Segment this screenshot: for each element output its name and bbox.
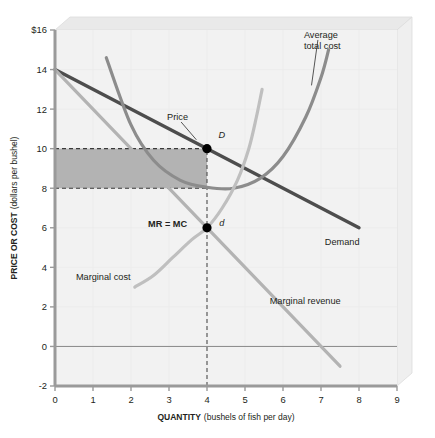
x-tick-label: 6 — [280, 394, 285, 405]
x-tick-label: 4 — [204, 394, 209, 405]
y-axis-title: PRICE OR COST(dollars per bushel) — [9, 136, 19, 279]
x-tick-label: 2 — [128, 394, 133, 405]
marker-point-d — [202, 223, 211, 232]
marker-point-D — [202, 144, 211, 153]
x-tick-label: 5 — [242, 394, 247, 405]
svg-text:QUANTITY(bushels of fish per d: QUANTITY(bushels of fish per day) — [157, 412, 294, 422]
x-axis-title-units: (bushels of fish per day) — [204, 412, 295, 422]
annotation-mr-equals-mc: MR = MC — [148, 219, 187, 229]
x-tick-label: 1 — [90, 394, 95, 405]
box-top-face — [55, 17, 412, 30]
plot-background — [55, 30, 397, 386]
x-axis-title-main: QUANTITY — [157, 412, 201, 422]
box-right-face — [397, 17, 412, 386]
annotation-marginal-cost: Marginal cost — [76, 272, 131, 282]
y-tick-label: -2 — [39, 380, 47, 391]
y-axis-title-main: PRICE OR COST — [9, 212, 19, 280]
y-tick-label: 8 — [42, 183, 47, 194]
annotation-point-D: D — [218, 130, 225, 140]
y-tick-label: 0 — [42, 341, 47, 352]
y-tick-label: 4 — [42, 262, 47, 273]
x-tick-label: 8 — [356, 394, 361, 405]
y-tick-label: 10 — [37, 143, 47, 154]
x-axis-title: QUANTITY(bushels of fish per day) — [157, 412, 294, 422]
annotation-point-d: d — [219, 218, 225, 228]
monopoly-price-cost-chart: PriceDdMR = MCAveragetotal costMarginal … — [0, 0, 435, 438]
y-tick-label: 12 — [37, 104, 47, 115]
y-axis-title-units: (dollars per bushel) — [9, 136, 19, 209]
x-tick-label: 9 — [394, 394, 399, 405]
x-axis-ticks: 0123456789 — [52, 386, 399, 405]
x-tick-label: 7 — [318, 394, 323, 405]
annotation-demand: Demand — [325, 237, 360, 247]
y-tick-label: 14 — [37, 64, 47, 75]
y-axis-ticks: $1614121086420-2 — [31, 24, 55, 391]
annotation-average-total-cost: Averagetotal cost — [304, 30, 341, 51]
chart-canvas: PriceDdMR = MCAveragetotal costMarginal … — [0, 0, 435, 438]
annotation-price: Price — [167, 112, 188, 122]
y-tick-label: 6 — [42, 222, 47, 233]
x-tick-label: 0 — [52, 394, 57, 405]
annotation-marginal-revenue: Marginal revenue — [270, 296, 341, 306]
y-tick-label: 2 — [42, 301, 47, 312]
x-tick-label: 3 — [166, 394, 171, 405]
y-tick-label: $16 — [31, 24, 47, 35]
svg-text:PRICE OR COST(dollars per bush: PRICE OR COST(dollars per bushel) — [9, 136, 19, 279]
